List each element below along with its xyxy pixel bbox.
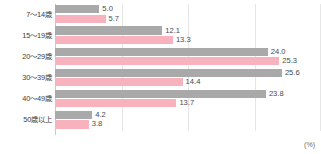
bar-row: 50歳以上 4.2 3.8 <box>55 110 321 131</box>
bar-group-gray: 25.6 <box>55 69 321 77</box>
bar-value-label: 25.3 <box>282 57 297 65</box>
bar-value-label: 14.4 <box>186 78 201 86</box>
bar-group-gray: 4.2 <box>55 111 321 119</box>
bar-value-label: 3.8 <box>92 121 103 129</box>
bar-group-pink: 13.7 <box>55 99 321 107</box>
bar-gray <box>55 26 162 34</box>
bar-gray <box>55 90 266 98</box>
bar-value-label: 25.6 <box>285 69 300 77</box>
category-label: 50歳以上 <box>0 117 52 124</box>
bar-row: 15〜19歳 12.1 13.3 <box>55 25 321 46</box>
bar-group-gray: 12.1 <box>55 26 321 34</box>
bar-group-gray: 24.0 <box>55 48 321 56</box>
plot-area: 7〜14歳 5.0 5.7 15〜19歳 12.1 <box>55 4 321 131</box>
bar-pink <box>55 57 279 65</box>
category-label: 40〜49歳 <box>0 96 52 103</box>
category-label: 30〜39歳 <box>0 74 52 81</box>
bar-pink <box>55 78 183 86</box>
unit-label: (%) <box>304 141 315 148</box>
bar-row: 40〜49歳 23.8 13.7 <box>55 89 321 110</box>
bar-value-label: 12.1 <box>165 27 180 35</box>
bar-gray <box>55 48 268 56</box>
category-label: 15〜19歳 <box>0 32 52 39</box>
bar-pink <box>55 99 176 107</box>
bar-pink <box>55 36 173 44</box>
bar-group-pink: 13.3 <box>55 36 321 44</box>
bar-pink <box>55 15 106 23</box>
bar-chart: 7〜14歳 5.0 5.7 15〜19歳 12.1 <box>0 0 321 154</box>
bar-group-gray: 5.0 <box>55 5 321 13</box>
category-label: 20〜29歳 <box>0 53 52 60</box>
bar-row: 20〜29歳 24.0 25.3 <box>55 46 321 67</box>
bar-group-gray: 23.8 <box>55 90 321 98</box>
bar-value-label: 13.7 <box>179 100 194 108</box>
bar-value-label: 4.2 <box>95 111 106 119</box>
bar-gray <box>55 5 99 13</box>
bar-rows: 7〜14歳 5.0 5.7 15〜19歳 12.1 <box>55 4 321 131</box>
bar-group-pink: 3.8 <box>55 120 321 128</box>
bar-value-label: 5.7 <box>109 15 120 23</box>
bar-value-label: 24.0 <box>271 48 286 56</box>
bar-value-label: 13.3 <box>176 36 191 44</box>
category-label: 7〜14歳 <box>0 11 52 18</box>
bar-row: 30〜39歳 25.6 14.4 <box>55 68 321 89</box>
bar-value-label: 5.0 <box>102 6 113 14</box>
bar-pink <box>55 120 89 128</box>
bar-group-pink: 5.7 <box>55 15 321 23</box>
bar-value-label: 23.8 <box>269 90 284 98</box>
bar-group-pink: 14.4 <box>55 78 321 86</box>
bar-gray <box>55 111 92 119</box>
bar-group-pink: 25.3 <box>55 57 321 65</box>
bar-gray <box>55 69 282 77</box>
bar-row: 7〜14歳 5.0 5.7 <box>55 4 321 25</box>
